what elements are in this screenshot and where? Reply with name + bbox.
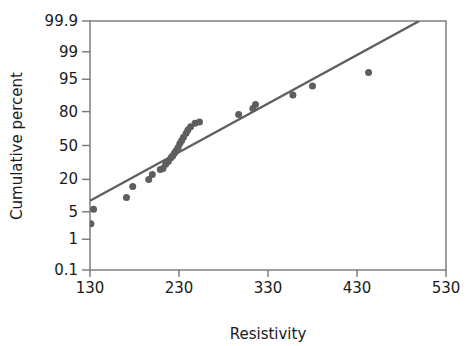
x-axis-title: Resistivity [230, 325, 307, 343]
x-tick-label: 430 [343, 279, 372, 297]
y-tick-label: 99.9 [45, 12, 78, 30]
y-tick-label: 5 [68, 203, 78, 221]
x-tick-label: 330 [254, 279, 283, 297]
x-tick-label: 130 [76, 279, 105, 297]
data-point [196, 119, 203, 126]
x-tick-label: 230 [165, 279, 194, 297]
y-tick-label: 20 [59, 170, 78, 188]
data-point [123, 194, 130, 201]
data-point [289, 91, 296, 98]
y-tick-label: 50 [59, 137, 78, 155]
y-axis-title: Cumulative percent [8, 72, 26, 220]
data-point [252, 101, 259, 108]
data-point [235, 111, 242, 118]
y-tick-label: 80 [59, 103, 78, 121]
data-point [309, 83, 316, 90]
data-point [149, 171, 156, 178]
y-tick-label: 95 [59, 70, 78, 88]
data-point [90, 206, 97, 213]
probability-plot-figure: 0.115205080959999.9 130230330430530 Resi… [0, 0, 474, 346]
data-point [129, 183, 136, 190]
x-tick-label: 530 [432, 279, 461, 297]
y-tick-label: 0.1 [54, 261, 78, 279]
data-point [365, 69, 372, 76]
y-tick-label: 1 [68, 230, 78, 248]
y-tick-label: 99 [59, 43, 78, 61]
